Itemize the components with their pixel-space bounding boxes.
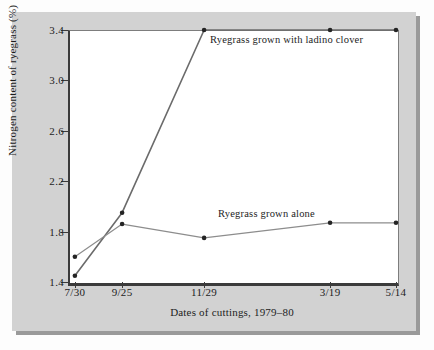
x-tick-marks [68,30,396,282]
x-tick-label: 5/14 [386,286,407,298]
figure-root: 1.41.82.22.63.03.4 7/309/2511/293/195/14… [0,0,434,350]
y-axis-title: Nitrogen content of ryegrass (%) [6,5,18,156]
y-tick-label: 3.0 [49,74,64,86]
x-tick-label: 3/19 [320,286,341,298]
y-tick-label: 3.4 [49,24,64,36]
x-axis-title: Dates of cuttings, 1979–80 [68,306,396,318]
annotation-ryegrass-alone: Ryegrass grown alone [218,208,315,219]
figure-card: 1.41.82.22.63.03.4 7/309/2511/293/195/14… [12,12,416,331]
annotation-ryegrass-with-clover: Ryegrass grown with ladino clover [210,34,363,45]
y-tick-label: 1.4 [49,276,64,288]
y-tick-label: 2.2 [49,175,64,187]
x-tick-labels: 7/309/2511/293/195/14 [68,286,396,304]
x-tick-label: 9/25 [112,286,133,298]
y-tick-label: 2.6 [49,125,64,137]
y-tick-label: 1.8 [49,226,64,238]
x-tick-label: 7/30 [65,286,86,298]
x-tick-label: 11/29 [191,286,217,298]
y-tick-labels: 1.41.82.22.63.03.4 [26,30,64,282]
